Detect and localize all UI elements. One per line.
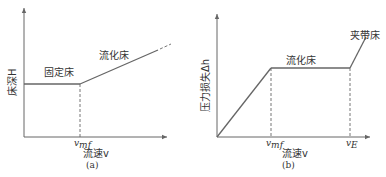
panel-b-fixed-bed-rise	[217, 68, 271, 137]
panel-a-caption: (a)	[86, 160, 98, 170]
panel-b-ve-tick: vE	[346, 138, 358, 150]
panel-b-x-label: 流速v	[282, 147, 308, 159]
panel-b-y-label: 压力损失Δh	[199, 59, 211, 112]
panel-a-x-label: 流速v	[83, 147, 109, 159]
panel-a-y-label: 床深H	[6, 68, 18, 96]
panel-b-caption: (b)	[282, 160, 295, 170]
fluidization-diagram: 固定床 流化床 床深H vmf 流速v (a) 流化床 夹带床 压力损失Δh v…	[0, 0, 386, 177]
panel-b-entrained-rise	[350, 37, 366, 68]
panel-a: 固定床 流化床 床深H vmf 流速v (a)	[6, 8, 171, 170]
panel-b-entrained-bed-label: 夹带床	[350, 29, 380, 41]
panel-a-fluidized-bed-label: 流化床	[99, 49, 129, 61]
panel-b: 流化床 夹带床 压力损失Δh vmf vE 流速v (b)	[199, 14, 380, 170]
panel-b-fluidized-bed-label: 流化床	[286, 54, 316, 66]
panel-a-extrapolation-dash	[160, 44, 171, 49]
panel-a-fixed-bed-label: 固定床	[44, 66, 74, 78]
